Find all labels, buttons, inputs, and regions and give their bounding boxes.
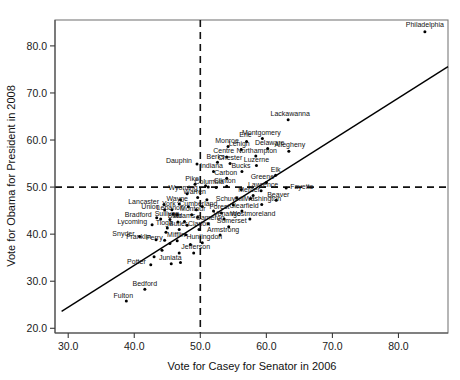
data-point-clarion [197, 228, 200, 231]
data-point-unlabeled-0 [204, 184, 207, 187]
point-label-philadelphia: Philadelphia [406, 21, 444, 29]
point-label-erie: Erie [239, 131, 252, 138]
y-tick-label-30.0: 30.0 [27, 275, 48, 287]
point-label-berks: Berks [207, 153, 225, 160]
point-label-mifflin: Mifflin [167, 231, 185, 238]
y-tick-label-80.0: 80.0 [27, 40, 48, 52]
point-label-butler: Butler [169, 220, 188, 227]
y-tick-label-70.0: 70.0 [27, 87, 48, 99]
data-point-perry [163, 239, 166, 242]
data-point-washington [260, 203, 263, 206]
data-point-unlabeled-1 [215, 186, 218, 189]
data-point-luzerne [255, 164, 258, 167]
data-point-mifflin [176, 239, 179, 242]
data-point-lycoming [151, 223, 154, 226]
point-label-lycoming: Lycoming [117, 218, 147, 226]
x-tick-label-50.0: 50.0 [190, 340, 211, 352]
point-label-dauphin: Dauphin [166, 157, 192, 165]
point-label-monroe: Monroe [215, 137, 239, 144]
point-label-fulton: Fulton [114, 292, 134, 299]
y-tick-label-60.0: 60.0 [27, 134, 48, 146]
point-label-bradford: Bradford [125, 211, 152, 218]
data-point-tioga [166, 227, 169, 230]
x-tick-label-30.0: 30.0 [58, 340, 79, 352]
x-tick-label-70.0: 70.0 [322, 340, 343, 352]
x-tick-label-40.0: 40.0 [124, 340, 145, 352]
point-label-perry: Perry [146, 234, 163, 242]
point-label-lackawanna: Lackawanna [271, 110, 310, 117]
point-label-jefferson: Jefferson [181, 243, 210, 250]
point-label-northampton: Northampton [237, 147, 278, 155]
data-point-dauphin [196, 163, 199, 166]
point-label-somerset: Somerset [217, 217, 247, 224]
x-tick-label-60.0: 60.0 [256, 340, 277, 352]
plot-canvas: PhiladelphiaLackawannaMontgomeryErieDela… [0, 0, 460, 380]
point-label-allegheny: Allegheny [274, 141, 305, 149]
y-tick-label-50.0: 50.0 [27, 181, 48, 193]
point-label-huntingdon: Huntingdon [186, 233, 222, 241]
point-label-columbia: Columbia [194, 178, 224, 185]
point-label-adams: Adams [174, 212, 196, 219]
y-tick-label-20.0: 20.0 [27, 322, 48, 334]
data-point-jefferson [192, 251, 195, 254]
data-point-unlabeled-21 [179, 261, 182, 264]
point-label-elk: Elk [271, 166, 281, 173]
data-point-bedford [143, 288, 146, 291]
data-point-fayette [285, 187, 288, 190]
data-point-bucks [240, 170, 243, 173]
data-point-columbia [207, 186, 210, 189]
y-tick-label-40.0: 40.0 [27, 228, 48, 240]
data-point-philadelphia [423, 30, 426, 33]
data-point-unlabeled-20 [153, 255, 156, 258]
data-point-warren [196, 196, 199, 199]
point-label-greene: Greene [251, 173, 274, 180]
scatter-plot-figure: PhiladelphiaLackawannaMontgomeryErieDela… [0, 0, 460, 380]
x-axis-ticks-group: 30.040.050.060.070.080.0 [55, 333, 448, 352]
data-point-lackawanna [287, 118, 290, 121]
point-label-potter: Potter [127, 258, 146, 265]
x-axis-title: Vote for Casey for Senator in 2006 [168, 360, 337, 372]
point-label-carbon: Carbon [214, 169, 237, 176]
data-point-potter [149, 263, 152, 266]
data-point-juniata [170, 262, 173, 265]
point-label-bedford: Bedford [133, 280, 158, 287]
point-labels-group: PhiladelphiaLackawannaMontgomeryErieDela… [112, 21, 444, 299]
data-point-westmoreland [248, 218, 251, 221]
data-point-fulton [125, 299, 128, 302]
point-label-fayette: Fayette [290, 183, 313, 191]
point-label-clearfield: Clearfield [229, 202, 259, 209]
point-label-juniata: Juniata [159, 254, 182, 261]
y-axis-title: Vote for Obama for President in 2008 [5, 85, 17, 267]
data-point-allegheny [287, 150, 290, 153]
data-point-clinton [225, 185, 228, 188]
point-label-mercer: Mercer [238, 186, 260, 193]
y-axis-ticks-group: 20.030.040.050.060.070.080.0 [27, 20, 55, 334]
x-tick-label-80.0: 80.0 [388, 340, 409, 352]
